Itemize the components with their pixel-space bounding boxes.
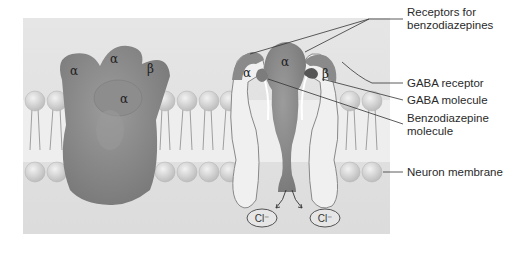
left-subunit-alpha-2: α <box>110 52 118 66</box>
right-subunit-alpha-left: α <box>243 66 251 80</box>
chloride-ion-left: Cl⁻ <box>247 209 277 227</box>
label-receptors-for-benzodiazepines: Receptors for benzodiazepines <box>407 6 493 32</box>
svg-text:Cl⁻: Cl⁻ <box>318 213 332 224</box>
right-receptor-cross-section: α α β <box>231 42 338 208</box>
left-subunit-beta: β <box>147 62 154 76</box>
right-subunit-alpha-center: α <box>281 55 289 69</box>
label-gaba-molecule: GABA molecule <box>407 94 488 107</box>
left-subunit-alpha-3: α <box>120 92 128 106</box>
chloride-ion-right: Cl⁻ <box>310 209 340 227</box>
label-benzodiazepine-molecule: Benzodiazepine molecule <box>407 112 489 138</box>
left-subunit-alpha-1: α <box>70 64 78 78</box>
svg-text:Cl⁻: Cl⁻ <box>255 213 269 224</box>
gaba-receptor-diagram: α α β α α α β <box>0 0 520 253</box>
label-gaba-receptor: GABA receptor <box>407 77 484 90</box>
label-neuron-membrane: Neuron membrane <box>407 166 503 179</box>
